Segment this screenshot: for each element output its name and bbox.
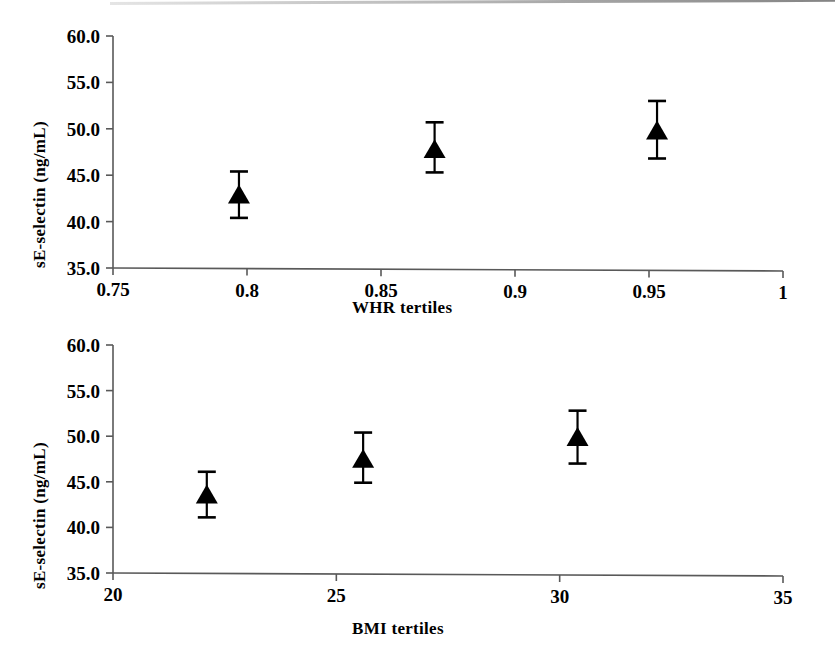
x-tick-label: 30 bbox=[550, 586, 569, 607]
x-axis-spine bbox=[113, 268, 783, 271]
figure-page: 35.040.045.050.055.060.00.750.80.850.90.… bbox=[0, 0, 835, 657]
marker-triangle bbox=[228, 185, 250, 204]
y-tick-label: 40.0 bbox=[67, 517, 100, 538]
y-tick-label: 40.0 bbox=[67, 212, 100, 233]
y-tick-label: 55.0 bbox=[67, 381, 100, 402]
x-tick-label: 20 bbox=[104, 584, 123, 605]
bmi-plot-area: 35.040.045.050.055.060.020253035 bbox=[0, 327, 835, 657]
x-axis-title-bmi: BMI tertiles bbox=[352, 619, 444, 639]
y-axis-title-whr: sE-selectin (ng/mL) bbox=[30, 121, 50, 268]
data-point-group bbox=[352, 433, 374, 483]
y-tick-label: 50.0 bbox=[67, 119, 100, 140]
data-point-group bbox=[646, 101, 668, 159]
x-tick-label: 0.95 bbox=[632, 281, 665, 302]
marker-triangle bbox=[567, 427, 589, 446]
y-tick-label: 45.0 bbox=[67, 165, 100, 186]
x-axis-title-whr: WHR tertiles bbox=[352, 298, 452, 318]
marker-triangle bbox=[646, 121, 668, 140]
marker-triangle bbox=[424, 139, 446, 158]
y-tick-label: 35.0 bbox=[67, 563, 100, 584]
x-tick-label: 35 bbox=[774, 587, 793, 608]
y-tick-label: 35.0 bbox=[67, 258, 100, 279]
x-tick-label: 0.8 bbox=[235, 280, 259, 301]
chart-panel-whr: 35.040.045.050.055.060.00.750.80.850.90.… bbox=[0, 0, 835, 330]
x-tick-label: 0.75 bbox=[96, 279, 129, 300]
marker-triangle bbox=[196, 484, 218, 503]
x-tick-label: 25 bbox=[327, 585, 346, 606]
x-axis-spine bbox=[113, 573, 783, 576]
chart-panel-bmi: 35.040.045.050.055.060.020253035 sE-sele… bbox=[0, 327, 835, 657]
y-tick-label: 60.0 bbox=[67, 335, 100, 356]
data-point-group bbox=[424, 122, 446, 172]
x-tick-label: 0.9 bbox=[503, 281, 527, 302]
data-point-group bbox=[567, 411, 589, 464]
y-tick-label: 55.0 bbox=[67, 72, 100, 93]
data-point-group bbox=[196, 472, 218, 518]
marker-triangle bbox=[352, 449, 374, 468]
whr-plot-area: 35.040.045.050.055.060.00.750.80.850.90.… bbox=[0, 0, 835, 330]
x-tick-label: 1 bbox=[778, 282, 788, 303]
y-axis-title-bmi: sE-selectin (ng/mL) bbox=[30, 442, 50, 589]
y-tick-label: 50.0 bbox=[67, 426, 100, 447]
y-tick-label: 45.0 bbox=[67, 472, 100, 493]
data-point-group bbox=[228, 171, 250, 217]
y-tick-label: 60.0 bbox=[67, 26, 100, 47]
